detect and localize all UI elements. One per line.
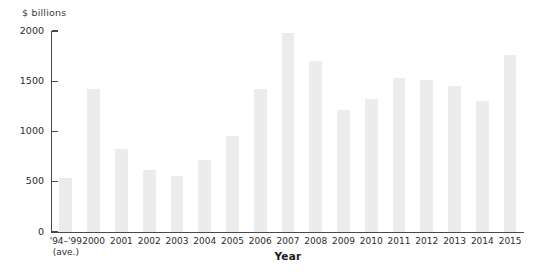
x-tick-label-main: 2015 <box>499 236 522 246</box>
bar-2012 <box>420 80 433 232</box>
bar-94-99 <box>59 178 72 232</box>
bar-2010 <box>365 99 378 232</box>
bar-2007 <box>282 33 295 232</box>
y-tick-label-0: 0 <box>0 227 44 237</box>
y-tick-label-2000: 2000 <box>0 26 44 36</box>
bar-2009 <box>337 110 350 232</box>
y-tick-label-500: 500 <box>0 176 44 186</box>
bar-2015 <box>504 55 517 232</box>
bar-2004 <box>198 160 211 232</box>
bar-chart: $ billions 0500100015002000 '94–'99(ave.… <box>0 0 540 277</box>
bar-2002 <box>143 170 156 232</box>
bar-2014 <box>476 101 489 232</box>
bar-2001 <box>115 149 128 232</box>
y-tick-label-1000: 1000 <box>0 126 44 136</box>
bar-2013 <box>448 86 461 232</box>
bar-2003 <box>171 176 184 232</box>
bar-2006 <box>254 89 267 232</box>
x-tick-label-2015: 2015 <box>478 236 540 247</box>
y-axis-unit-label: $ billions <box>22 7 66 18</box>
bar-2000 <box>87 89 100 232</box>
bar-2008 <box>309 61 322 232</box>
bar-2005 <box>226 136 239 232</box>
bar-2011 <box>393 78 406 232</box>
x-axis-title: Year <box>52 250 524 262</box>
plot-area <box>52 31 524 232</box>
y-tick-label-1500: 1500 <box>0 76 44 86</box>
